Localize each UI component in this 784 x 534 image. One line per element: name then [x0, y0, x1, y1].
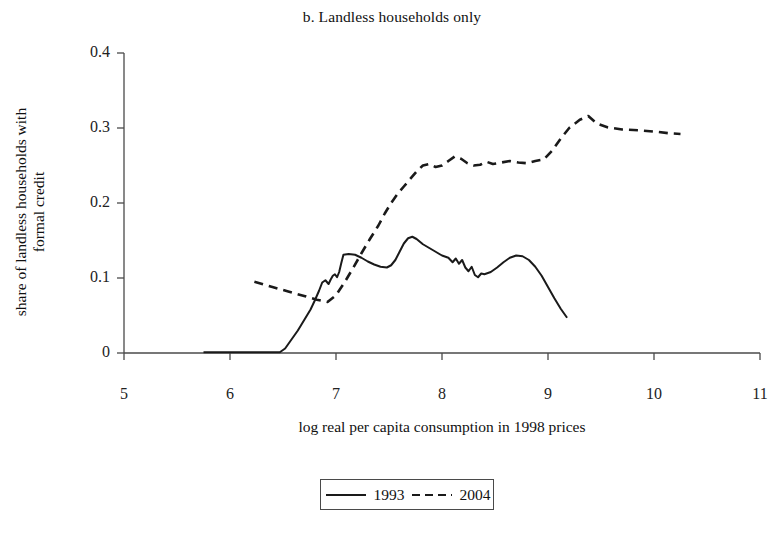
axes [117, 53, 760, 360]
series-line-1993 [204, 237, 568, 353]
legend-label-1993: 1993 [374, 486, 405, 504]
legend-item-2004: 2004 [410, 486, 491, 504]
legend-swatch-dashed [410, 490, 454, 500]
y-axis-ticks [117, 53, 124, 353]
legend-swatch-solid [324, 490, 368, 500]
x-axis-ticks [124, 353, 760, 360]
legend: 1993 2004 [320, 479, 494, 510]
plot-area [0, 0, 784, 534]
legend-label-2004: 2004 [460, 486, 491, 504]
legend-item-1993: 1993 [324, 486, 405, 504]
series-line-2004 [254, 116, 680, 302]
data-series-layer [204, 116, 681, 352]
chart-figure: b. Landless households only share of lan… [0, 0, 784, 534]
